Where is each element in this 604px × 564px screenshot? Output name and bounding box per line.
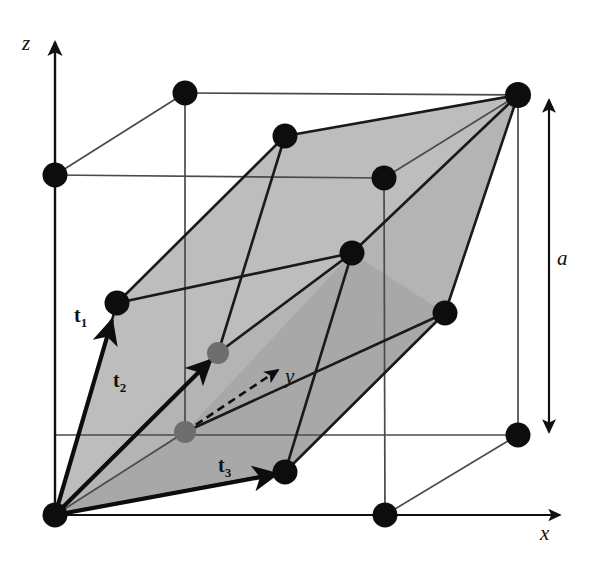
- lattice-diagram: z x y t1 t2 t3 a: [0, 0, 604, 564]
- atom-corner: [372, 166, 397, 191]
- cube-edge: [55, 93, 185, 175]
- cube-edge: [384, 178, 385, 515]
- atom-corner: [433, 301, 458, 326]
- vector-t1-label: t1: [74, 304, 87, 330]
- vector-t2-subscript: 2: [120, 380, 127, 395]
- atom-corner: [173, 81, 198, 106]
- atom-corner: [373, 503, 398, 528]
- z-axis-label: z: [21, 31, 30, 55]
- atom-face-center: [207, 342, 229, 364]
- atom-corner: [43, 163, 68, 188]
- lattice-svg-canvas: z x y t1 t2 t3 a: [0, 0, 604, 564]
- dimension-a-label: a: [557, 246, 568, 270]
- atom-face-center: [174, 421, 196, 443]
- atom-corner: [105, 291, 130, 316]
- atom-corner: [273, 460, 298, 485]
- atom-corner: [273, 124, 298, 149]
- y-axis-label: y: [283, 364, 295, 388]
- vector-t3-subscript: 3: [225, 465, 232, 480]
- cube-edge: [385, 435, 518, 515]
- atom-corner: [505, 82, 531, 108]
- x-axis-label: x: [539, 521, 550, 545]
- atom-corner: [43, 503, 68, 528]
- atom-corner: [340, 241, 365, 266]
- vector-t1-subscript: 1: [81, 315, 88, 330]
- atom-corner: [506, 423, 531, 448]
- dimension-a-group: a: [549, 100, 568, 432]
- cube-edge: [185, 93, 518, 95]
